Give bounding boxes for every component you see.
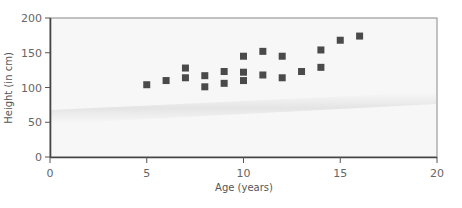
x-tick-label: 0 (47, 167, 54, 180)
y-axis-ticks: 050100150200 (21, 12, 50, 164)
y-tick-label: 50 (28, 116, 42, 129)
data-point-square (317, 64, 324, 71)
x-tick-label: 10 (237, 167, 251, 180)
y-tick-label: 200 (21, 12, 42, 25)
data-point-square (317, 46, 324, 53)
data-point-square (182, 74, 189, 81)
data-point-square (240, 53, 247, 60)
y-tick-label: 150 (21, 47, 42, 60)
data-point-square (259, 71, 266, 78)
data-point-square (279, 74, 286, 81)
data-point-square (240, 77, 247, 84)
data-point-square (221, 68, 228, 75)
y-tick-label: 100 (21, 82, 42, 95)
y-tick-label: 0 (35, 151, 42, 164)
data-point-square (221, 80, 228, 87)
data-point-square (298, 68, 305, 75)
data-point-square (201, 83, 208, 90)
x-tick-label: 15 (333, 167, 347, 180)
plot-area (50, 18, 437, 157)
data-point-square (143, 81, 150, 88)
data-point-square (182, 65, 189, 72)
data-point-square (279, 53, 286, 60)
data-point-square (163, 77, 170, 84)
x-tick-label: 20 (430, 167, 444, 180)
data-point-square (337, 37, 344, 44)
x-axis-label: Age (years) (215, 182, 273, 193)
x-tick-label: 5 (143, 167, 150, 180)
x-axis-ticks: 05101520 (47, 157, 445, 180)
data-point-square (259, 48, 266, 55)
data-point-square (240, 69, 247, 76)
y-axis-label: Height (in cm) (3, 52, 14, 124)
scatter-chart: 050100150200 05101520 Age (years) Height… (0, 0, 462, 208)
data-point-square (201, 72, 208, 79)
data-point-square (356, 33, 363, 40)
